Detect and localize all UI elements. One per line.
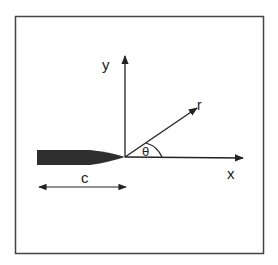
- crack-tip-diagram: y x r θ c: [0, 0, 278, 265]
- r-label: r: [197, 97, 202, 113]
- theta-label: θ: [142, 144, 149, 159]
- y-axis-label: y: [102, 56, 110, 73]
- frame-border: [16, 17, 264, 254]
- c-label: c: [81, 169, 89, 186]
- crack-shape: [37, 150, 125, 165]
- x-axis-label: x: [227, 165, 235, 182]
- radial-vector: [125, 108, 197, 157]
